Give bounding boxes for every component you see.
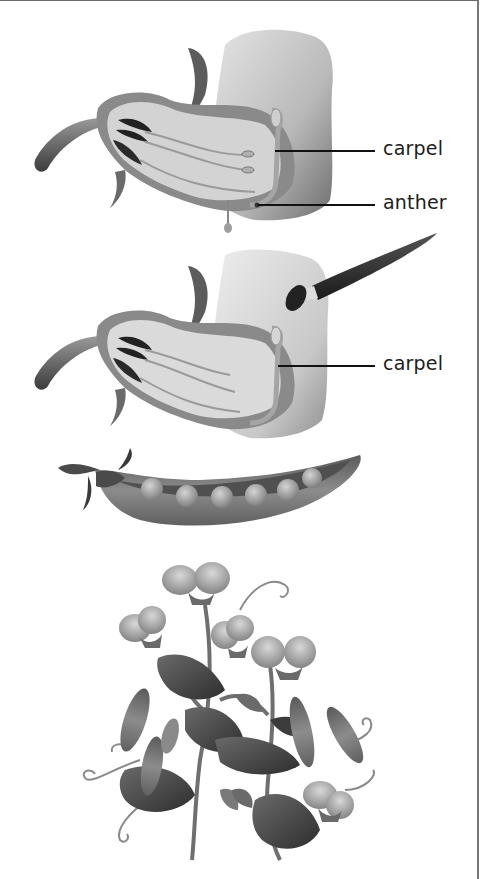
label-carpel-2: carpel xyxy=(383,354,443,373)
flower-cutaway-2 xyxy=(34,233,437,438)
flower-cutaway-1 xyxy=(34,30,332,233)
pea-pod xyxy=(58,448,361,526)
leader-line-carpel-1 xyxy=(275,150,375,152)
leader-line-anther xyxy=(258,204,375,206)
leader-line-carpel-2 xyxy=(278,365,375,367)
label-anther: anther xyxy=(383,193,447,212)
label-carpel-1: carpel xyxy=(383,139,443,158)
illustration-canvas xyxy=(0,0,489,879)
pea-plant xyxy=(84,562,374,860)
